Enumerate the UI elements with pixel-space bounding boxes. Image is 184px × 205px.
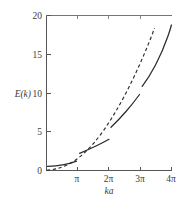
x-tick-label-3pi: 3π — [135, 174, 145, 184]
x-axis-ticks — [77, 167, 172, 171]
energy-band-structure-figure: 20 15 10 5 0 π 2π 3π 4π E(k) ka — [0, 0, 184, 205]
plot-area: 20 15 10 5 0 π 2π 3π 4π E(k) ka — [0, 0, 184, 205]
y-tick-label-20: 20 — [33, 11, 43, 21]
band-curve-4 — [142, 25, 171, 86]
y-axis-title: E(k) — [14, 89, 31, 100]
x-axis-title: ka — [105, 186, 114, 196]
y-tick-label-10: 10 — [33, 89, 43, 99]
band-curve-2 — [80, 139, 109, 153]
y-axis-ticks — [47, 16, 52, 171]
free-electron-parabola-curve — [47, 28, 155, 170]
x-tick-label-4pi: 4π — [166, 174, 176, 184]
y-tick-label-0: 0 — [37, 166, 42, 176]
x-tick-label-pi: π — [75, 174, 80, 184]
y-tick-label-5: 5 — [37, 127, 42, 137]
band-curve-3 — [111, 95, 140, 128]
x-tick-label-2pi: 2π — [104, 174, 114, 184]
y-tick-label-15: 15 — [33, 50, 43, 60]
